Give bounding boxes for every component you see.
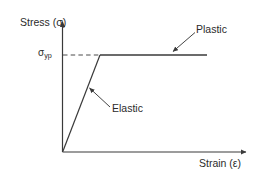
yield-stress-subscript: yp bbox=[44, 51, 52, 60]
elastic-curve-segment bbox=[63, 55, 100, 152]
x-axis-label: Strain (ε) bbox=[199, 158, 241, 169]
elastic-region-label: Elastic bbox=[112, 103, 143, 114]
plastic-leader-arrow bbox=[173, 33, 195, 52]
y-axis-label: Stress (σ) bbox=[20, 17, 66, 28]
stress-strain-diagram: Stress (σ) Strain (ε) σyp Plastic Elasti… bbox=[0, 0, 280, 177]
yield-stress-label: σyp bbox=[38, 48, 52, 59]
elastic-leader-arrow bbox=[90, 88, 111, 107]
plastic-region-label: Plastic bbox=[196, 24, 227, 35]
